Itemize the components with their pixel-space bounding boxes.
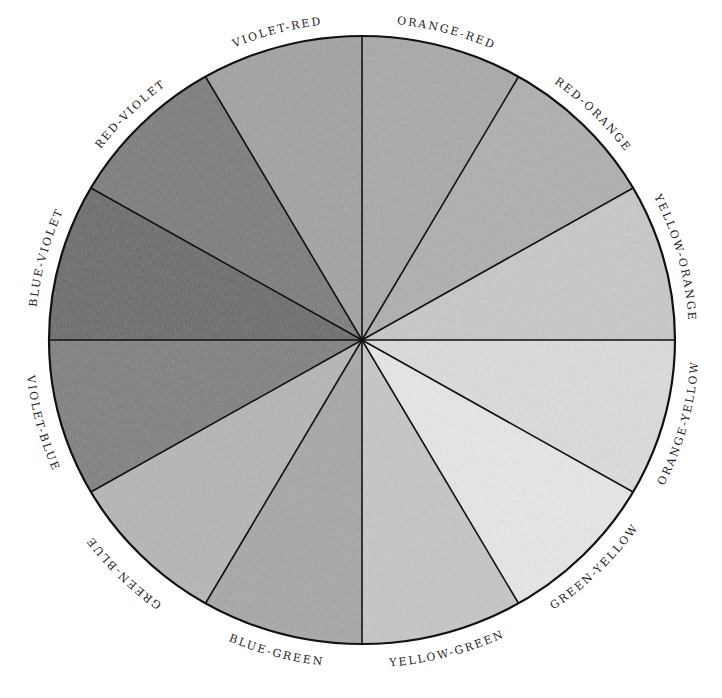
color-wheel-diagram: ORANGE-REDRED-ORANGEYELLOW-ORANGEORANGE-… — [0, 0, 722, 698]
